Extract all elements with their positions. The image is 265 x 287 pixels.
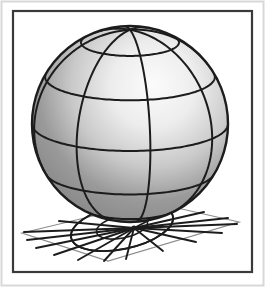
figure-root: Shaded sphere with latitude-longitude gr…: [0, 0, 265, 287]
sphere-illustration-svg: [0, 0, 265, 287]
sphere-ground-contact-point: [131, 225, 136, 230]
shaded-sphere: [32, 26, 228, 222]
